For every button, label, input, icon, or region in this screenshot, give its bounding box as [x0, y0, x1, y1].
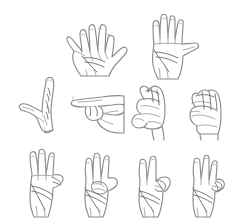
index-pointing-sideways-icon — [68, 88, 126, 136]
index-up-thumb-out-l-shape-icon — [14, 72, 68, 134]
figure-three-fingers-up-pinky-folded: Three fingers up, pinky folded — [184, 146, 236, 218]
figure-index-pointing-sideways: Index finger pointing sideways — [68, 88, 126, 136]
fist-thumb-visible-icon — [126, 78, 180, 140]
figure-fist-thumb-visible: Closed fist, thumb at side — [126, 78, 180, 140]
figure-two-fingers-up-thumb-out: Two fingers up, thumb out — [130, 146, 182, 218]
open-palm-fingers-together-icon — [134, 6, 204, 80]
three-fingers-up-icon — [20, 144, 72, 218]
hand-gesture-sheet: Open palm, fingers spread Open palm, fi — [0, 0, 244, 224]
open-palm-fingers-spread-icon — [60, 4, 136, 80]
figure-closed-fist: Closed fist, knuckles forward — [182, 80, 234, 140]
figure-open-palm-fingers-together: Open palm, fingers together, thumb out — [134, 6, 204, 80]
figure-three-fingers-up: Three fingers up — [20, 144, 72, 218]
figure-open-palm-fingers-spread: Open palm, fingers spread — [60, 4, 136, 80]
figure-index-up-thumb-out-l-shape: Index finger up, thumb extended (L shape… — [14, 72, 68, 134]
three-fingers-up-pinky-folded-icon — [184, 146, 236, 218]
figure-three-fingers-up-thumb-tucked: Three fingers up, thumb tucked — [76, 146, 128, 218]
two-fingers-up-thumb-out-icon — [130, 146, 182, 218]
three-fingers-up-thumb-tucked-icon — [76, 146, 128, 218]
closed-fist-icon — [182, 80, 234, 140]
